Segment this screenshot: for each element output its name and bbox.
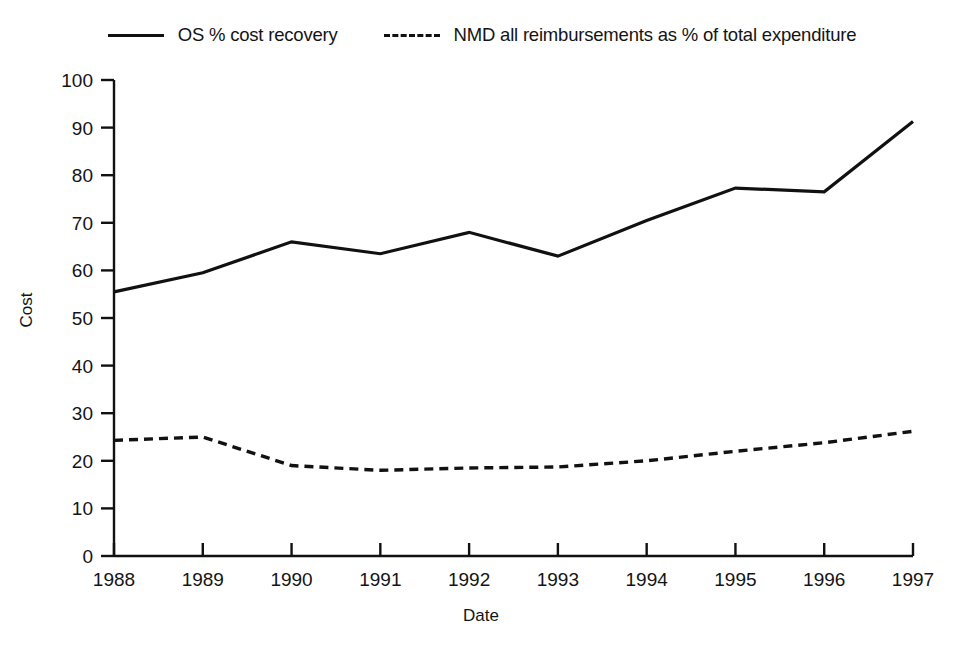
y-tick-label: 60	[47, 261, 93, 280]
x-tick-label: 1988	[69, 570, 159, 589]
x-tick-label: 1997	[868, 570, 958, 589]
x-tick-label: 1994	[602, 570, 692, 589]
y-tick-label: 50	[47, 309, 93, 328]
y-tick-label: 0	[47, 547, 93, 566]
y-tick-label: 40	[47, 357, 93, 376]
y-tick-label: 20	[47, 452, 93, 471]
x-tick-label: 1992	[424, 570, 514, 589]
x-tick-label: 1991	[335, 570, 425, 589]
x-axis-ticks	[114, 543, 913, 556]
x-tick-label: 1989	[158, 570, 248, 589]
y-tick-label: 10	[47, 499, 93, 518]
series-line-nmd-reimbursements	[114, 431, 913, 470]
x-axis-title: Date	[0, 606, 962, 626]
x-tick-label: 1990	[247, 570, 337, 589]
y-tick-label: 90	[47, 119, 93, 138]
x-tick-label: 1996	[779, 570, 869, 589]
y-axis-ticks	[101, 80, 114, 556]
chart-canvas	[0, 0, 962, 655]
y-tick-label: 80	[47, 166, 93, 185]
chart-figure: OS % cost recovery NMD all reimbursement…	[0, 0, 962, 655]
plot-area: 0102030405060708090100 19881989199019911…	[0, 0, 962, 655]
x-tick-label: 1995	[690, 570, 780, 589]
y-tick-label: 30	[47, 404, 93, 423]
x-tick-label: 1993	[513, 570, 603, 589]
series-line-os-cost-recovery	[114, 121, 913, 291]
y-tick-label: 100	[47, 71, 93, 90]
y-axis-title: Cost	[17, 265, 37, 355]
y-tick-label: 70	[47, 214, 93, 233]
